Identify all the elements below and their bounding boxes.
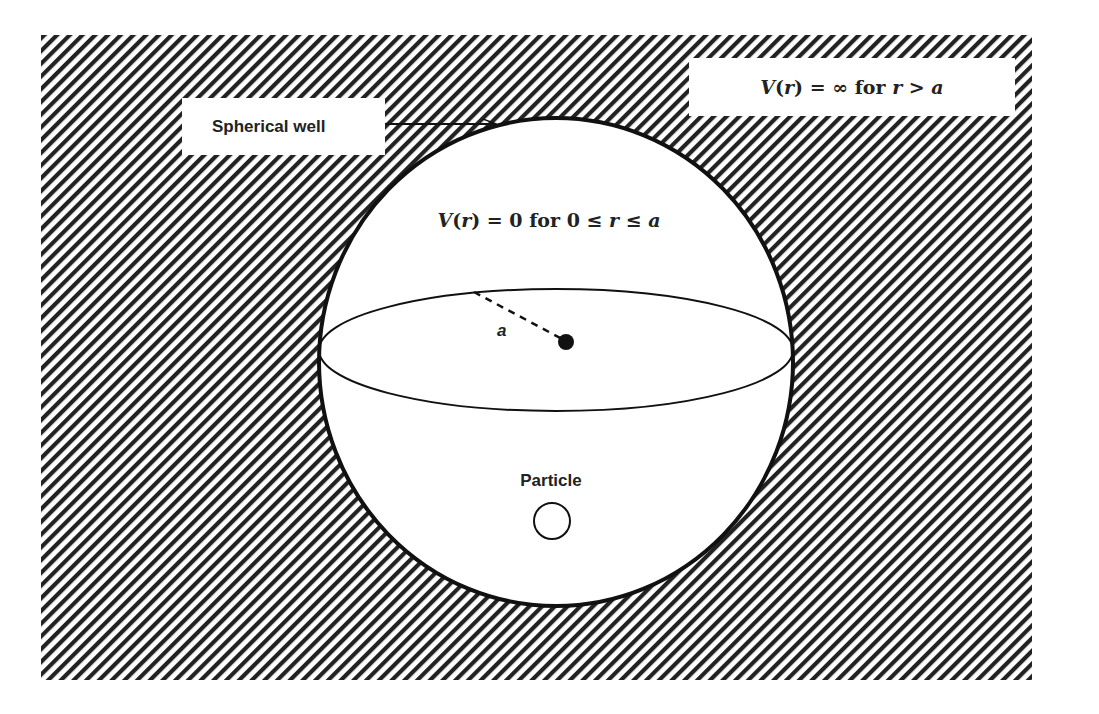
spherical-well-diagram: a V(r) = ∞ for r > a Spherical well V(r)… — [0, 0, 1099, 714]
particle-circle-icon — [534, 503, 570, 539]
well-label: Spherical well — [212, 117, 325, 136]
center-dot-icon — [558, 334, 574, 350]
particle-label: Particle — [520, 471, 581, 490]
inner-potential-label: V(r) = 0 for 0 ≤ r ≤ a — [437, 209, 660, 231]
outer-potential-label: V(r) = ∞ for r > a — [760, 76, 943, 98]
radius-label: a — [497, 321, 506, 340]
